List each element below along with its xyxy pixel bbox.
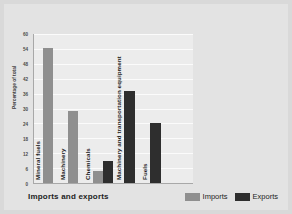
bar-fuels-exports	[150, 123, 161, 183]
y-tick-18: 18	[23, 137, 28, 142]
legend-swatch-imports	[185, 193, 200, 201]
chart-title: Imports and exports	[28, 192, 109, 201]
y-tick-42: 42	[23, 77, 28, 82]
chart-legend: Imports Exports	[185, 192, 278, 201]
bar-group	[34, 34, 193, 183]
legend-item-exports: Exports	[235, 192, 278, 201]
y-axis-tick-labels: 60 54 48 42 36 30 24 18 12 6 0	[4, 34, 31, 184]
category-label-mineral-fuels: Mineral fuels	[34, 141, 41, 180]
bar-machinery-imports	[68, 111, 78, 184]
y-tick-36: 36	[23, 92, 28, 97]
chart-canvas: Percentage of total 60 54 48 42 36 30 24…	[4, 4, 288, 210]
category-label-machinery: Machinery	[59, 148, 66, 180]
y-tick-30: 30	[23, 107, 28, 112]
bar-machinery-transport-exports	[124, 91, 135, 184]
legend-item-imports: Imports	[185, 192, 228, 201]
y-tick-60: 60	[23, 32, 28, 37]
category-label-fuels: Fuels	[141, 163, 148, 180]
legend-label-imports: Imports	[203, 192, 228, 201]
y-tick-12: 12	[23, 152, 28, 157]
bar-mineral-fuels-imports	[43, 48, 53, 183]
plot-area: Mineral fuels Machinery Chemicals Machin…	[33, 34, 193, 184]
bar-chemicals-imports	[93, 171, 103, 184]
legend-swatch-exports	[235, 193, 250, 201]
category-label-chemicals: Chemicals	[84, 148, 91, 180]
bar-chemicals-exports	[103, 161, 113, 184]
chart-figure: Percentage of total 60 54 48 42 36 30 24…	[0, 0, 292, 214]
y-tick-54: 54	[23, 47, 28, 52]
y-tick-0: 0	[25, 182, 28, 187]
legend-label-exports: Exports	[253, 192, 278, 201]
category-label-machinery-transport: Machinery and transportation equipment	[115, 56, 122, 180]
y-tick-6: 6	[25, 167, 28, 172]
y-tick-48: 48	[23, 62, 28, 67]
y-tick-24: 24	[23, 122, 28, 127]
